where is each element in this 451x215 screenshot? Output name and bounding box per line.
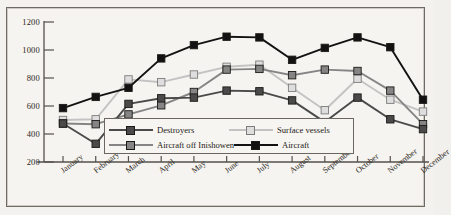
- data-point: [387, 116, 394, 123]
- data-point: [321, 107, 328, 114]
- data-point: [256, 88, 263, 95]
- series-aircraft: [59, 33, 426, 112]
- legend-row: Destroyers Surface vessels: [109, 122, 349, 137]
- data-point: [223, 87, 230, 94]
- data-point: [158, 79, 165, 86]
- y-tick-label: 1000: [6, 45, 40, 55]
- data-point: [288, 97, 295, 104]
- data-point: [190, 71, 197, 78]
- data-point: [92, 93, 99, 100]
- legend-swatch-aircraft: [234, 139, 278, 151]
- data-point: [419, 125, 426, 132]
- data-point: [321, 44, 328, 51]
- data-point: [158, 95, 165, 102]
- y-tick-label: 600: [6, 101, 40, 111]
- legend-entry-destroyers[interactable]: Destroyers: [109, 124, 229, 136]
- data-point: [354, 75, 361, 82]
- data-point: [288, 72, 295, 79]
- data-point: [387, 44, 394, 51]
- data-point: [190, 41, 197, 48]
- data-point: [354, 94, 361, 101]
- data-point: [288, 56, 295, 63]
- data-point: [354, 67, 361, 74]
- data-point: [419, 108, 426, 115]
- data-point: [190, 94, 197, 101]
- legend-entry-aircraft[interactable]: Aircraft: [234, 139, 349, 151]
- data-point: [59, 120, 66, 127]
- data-point: [158, 55, 165, 62]
- data-point: [125, 100, 132, 107]
- chart-legend: Destroyers Surface vessels Aircraft off …: [104, 118, 354, 154]
- legend-swatch-aircraft-off-inishowen: [109, 139, 153, 151]
- data-point: [419, 96, 426, 103]
- legend-swatch-destroyers: [109, 124, 153, 136]
- data-point: [59, 104, 66, 111]
- legend-swatch-surface-vessels: [229, 124, 273, 136]
- legend-label-destroyers: Destroyers: [157, 125, 194, 135]
- data-point: [256, 65, 263, 72]
- data-point: [223, 33, 230, 40]
- legend-label-surface-vessels: Surface vessels: [277, 125, 330, 135]
- data-point: [223, 66, 230, 73]
- legend-entry-aircraft-off-inishowen[interactable]: Aircraft off Inishowen: [109, 139, 234, 151]
- y-tick-label: 200: [6, 157, 40, 167]
- data-point: [158, 102, 165, 109]
- legend-entry-surface-vessels[interactable]: Surface vessels: [229, 124, 349, 136]
- data-point: [387, 96, 394, 103]
- data-point: [288, 84, 295, 91]
- legend-label-aircraft: Aircraft: [282, 140, 309, 150]
- y-tick-label: 1200: [6, 17, 40, 27]
- y-tick-label: 400: [6, 129, 40, 139]
- data-point: [256, 34, 263, 41]
- data-point: [92, 121, 99, 128]
- data-point: [125, 111, 132, 118]
- data-point: [125, 76, 132, 83]
- data-point: [125, 84, 132, 91]
- legend-row: Aircraft off Inishowen Aircraft: [109, 137, 349, 152]
- data-point: [387, 87, 394, 94]
- data-point: [354, 34, 361, 41]
- legend-label-aircraft-off-inishowen: Aircraft off Inishowen: [157, 140, 234, 150]
- data-point: [321, 66, 328, 73]
- y-tick-label: 800: [6, 73, 40, 83]
- data-point: [92, 140, 99, 147]
